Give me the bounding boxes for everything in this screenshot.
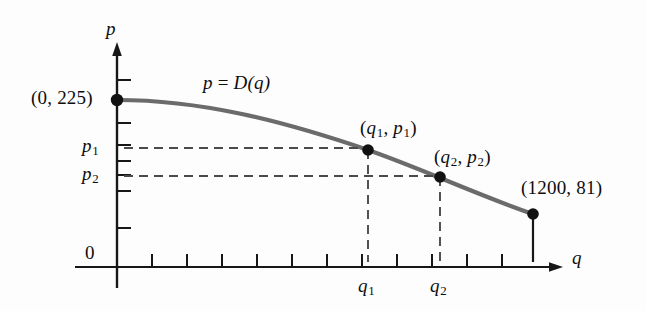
point2-label: (q2, p2) — [434, 147, 491, 169]
intercept-label: (0, 225) — [31, 88, 93, 107]
point1-comma: , — [383, 117, 393, 138]
guide-lines — [124, 148, 440, 262]
point1-close: ) — [410, 117, 417, 138]
q2-base: q — [430, 275, 440, 296]
point1-q: q — [367, 117, 377, 138]
p2-tick-label: p2 — [82, 164, 99, 186]
equation-d: D — [234, 72, 248, 93]
p2-subscript: 2 — [92, 171, 99, 186]
q1-subscript: 1 — [368, 283, 375, 298]
equation-arg: (q) — [247, 72, 270, 93]
point-intercept — [111, 94, 123, 106]
q2-subscript: 2 — [440, 283, 447, 298]
q1-tick-label: q1 — [358, 276, 375, 298]
q2-tick-label: q2 — [430, 276, 447, 298]
q1-base: q — [358, 275, 368, 296]
point2-comma: , — [457, 146, 467, 167]
point-endpoint — [527, 208, 539, 220]
point-q1-p1 — [362, 144, 374, 156]
point2-q: q — [441, 146, 451, 167]
equation-equals: = — [218, 72, 229, 93]
origin-label: 0 — [85, 243, 95, 262]
x-axis — [75, 254, 563, 272]
point2-close: ) — [484, 146, 491, 167]
equation-p: p — [203, 72, 213, 93]
p1-tick-label: p1 — [82, 136, 99, 158]
demand-curve-figure: 0 p q (0, 225) p = D(q) (q1, p1) (q2, p2… — [0, 0, 646, 311]
p2-base: p — [82, 163, 92, 184]
y-axis — [112, 42, 131, 288]
p1-subscript: 1 — [92, 143, 99, 158]
p1-base: p — [82, 135, 92, 156]
y-axis-label: p — [106, 19, 116, 38]
x-axis-label: q — [572, 248, 582, 267]
endpoint-label: (1200, 81) — [521, 178, 602, 197]
point1-label: (q1, p1) — [360, 118, 417, 140]
curve-equation-label: p = D(q) — [203, 73, 270, 92]
point-q2-p2 — [434, 171, 446, 183]
point1-p: p — [393, 117, 403, 138]
point2-p: p — [467, 146, 477, 167]
